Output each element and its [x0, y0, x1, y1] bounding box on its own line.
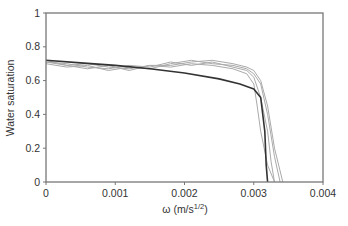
- axis-ticks: 00.20.40.60.8100.0010.0020.0030.004: [25, 7, 336, 200]
- y-tick-label: 0.8: [25, 40, 40, 52]
- x-tick-label: 0: [43, 187, 49, 199]
- measured-curve: [46, 60, 275, 182]
- x-tick-label: 0.004: [310, 187, 336, 199]
- y-tick-label: 0.4: [25, 108, 40, 120]
- x-tick-label: 0.001: [102, 187, 128, 199]
- x-axis-title-close: ): [204, 203, 208, 215]
- measured-curve: [46, 62, 275, 182]
- y-tick-label: 0.2: [25, 142, 40, 154]
- water-saturation-chart: 00.20.40.60.8100.0010.0020.0030.004 Wate…: [0, 0, 348, 226]
- model-curve: [46, 60, 268, 182]
- x-axis-title-main: ω (m/s: [162, 203, 194, 215]
- series-layer: [46, 60, 283, 182]
- measured-curve: [46, 60, 283, 182]
- measured-curve: [46, 60, 280, 182]
- x-tick-label: 0.002: [171, 187, 197, 199]
- plot-frame: [46, 13, 323, 182]
- x-axis-title-sup: 1/2: [194, 202, 204, 211]
- x-axis-title: ω (m/s1/2): [162, 202, 207, 215]
- y-tick-label: 1: [34, 7, 40, 19]
- plot-border: [46, 13, 323, 182]
- y-axis-title: Water saturation: [4, 60, 16, 137]
- x-tick-label: 0.003: [241, 187, 267, 199]
- y-tick-label: 0: [34, 176, 40, 188]
- y-tick-label: 0.6: [25, 74, 40, 86]
